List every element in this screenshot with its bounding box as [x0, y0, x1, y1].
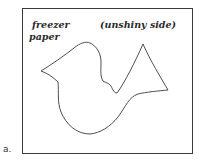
bird-shape-outline — [41, 42, 168, 134]
freezer-paper-diagram: freezer paper (unshiny side) a. — [0, 0, 206, 165]
unshiny-side-label: (unshiny side) — [100, 19, 176, 30]
freezer-label-line1: freezer — [32, 19, 70, 30]
paper-label: paper — [29, 31, 60, 42]
freezer-label-line2: paper — [29, 31, 60, 42]
figure-letter: a. — [3, 144, 11, 154]
side-label: (unshiny side) — [100, 19, 176, 30]
freezer-label: freezer — [32, 19, 70, 30]
figure-letter-text: a. — [3, 144, 11, 154]
